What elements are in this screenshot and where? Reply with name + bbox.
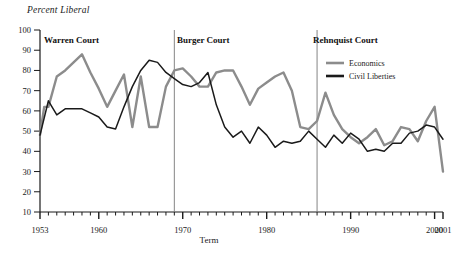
y-tick-label: 90	[23, 45, 32, 55]
legend-label-civil-liberties: Civil Liberties	[349, 72, 395, 81]
era-divider-group	[174, 30, 317, 212]
x-tick-label: 2001	[435, 225, 452, 235]
chart-container: Percent Liberal 102030405060708090100 19…	[0, 0, 469, 262]
y-tick-label: 40	[23, 146, 32, 156]
x-tick-label: 1990	[342, 225, 359, 235]
y-tick-label: 60	[23, 106, 32, 116]
line-chart: 102030405060708090100 195319601970198019…	[0, 0, 469, 262]
x-tick-group	[40, 212, 443, 219]
era-label-warren: Warren Court	[44, 35, 99, 45]
y-tick-label: 50	[23, 126, 32, 136]
x-tick-label: 1980	[258, 225, 275, 235]
y-tick-label: 10	[23, 207, 32, 217]
era-label-burger: Burger Court	[177, 35, 230, 45]
y-tick-label: 100	[18, 25, 31, 35]
x-tick-label: 1970	[174, 225, 191, 235]
legend: Economics Civil Liberties	[326, 59, 395, 81]
y-tick-label: 30	[23, 167, 32, 177]
x-axis-title: Term	[200, 235, 219, 245]
y-tick-label: 20	[23, 187, 32, 197]
y-tick-label: 80	[23, 65, 32, 75]
y-tick-label: 70	[23, 86, 32, 96]
x-tick-label-group: 1953196019701980199020002001	[32, 225, 452, 235]
x-tick-label: 1960	[90, 225, 107, 235]
legend-label-economics: Economics	[349, 59, 385, 68]
era-label-rehnquist: Rehnquist Court	[313, 35, 378, 45]
y-tick-group: 102030405060708090100	[18, 25, 40, 217]
x-tick-label: 1953	[32, 225, 49, 235]
